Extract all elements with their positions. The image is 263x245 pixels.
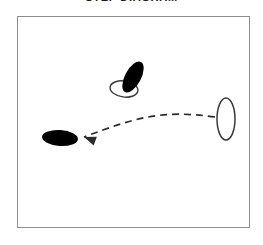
outline-footprint-reference [217, 98, 235, 140]
dashed-motion-arrow [84, 114, 215, 145]
motion-arrow-head [84, 137, 97, 146]
start-foot-pair [109, 58, 148, 99]
motion-arrow-curve [84, 114, 215, 137]
step-diagram-canvas [0, 0, 263, 245]
filled-footprint-end [41, 129, 78, 147]
